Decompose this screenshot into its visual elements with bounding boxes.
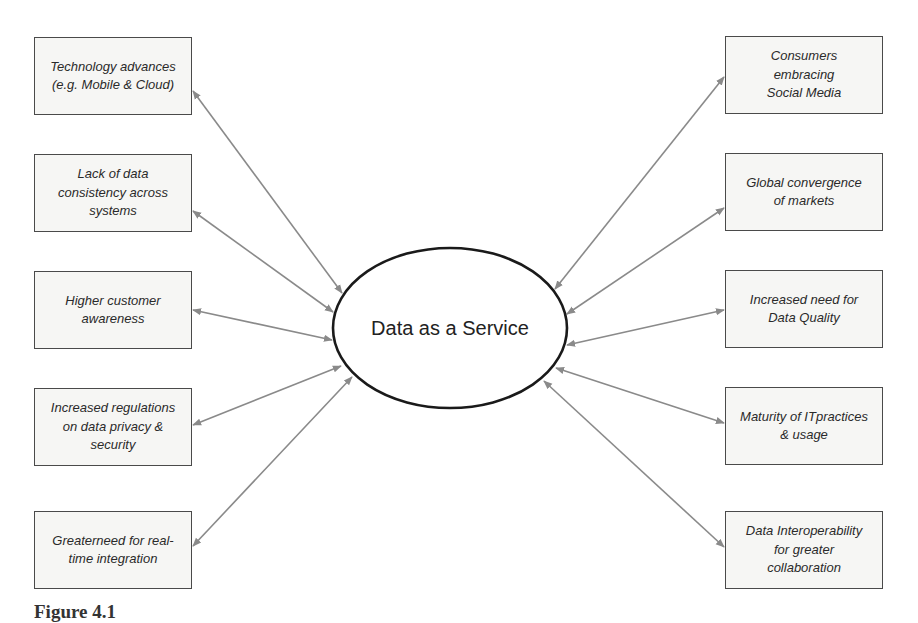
connector-left-2 (193, 211, 333, 312)
connector-right-5 (544, 381, 724, 547)
driver-box-customer-awareness: Higher customer awareness (34, 271, 192, 349)
driver-box-data-quality: Increased need for Data Quality (725, 270, 883, 348)
connector-right-3 (567, 310, 724, 345)
connector-left-4 (193, 366, 341, 425)
driver-box-real-time-integration: Greaterneed for real- time integration (34, 511, 192, 589)
connector-right-1 (555, 77, 724, 289)
driver-box-technology-advances: Technology advances (e.g. Mobile & Cloud… (34, 37, 192, 115)
driver-label: Higher customer awareness (61, 292, 164, 329)
driver-box-data-interoperability: Data Interoperability for greater collab… (725, 511, 883, 589)
driver-box-regulations: Increased regulations on data privacy & … (34, 388, 192, 466)
connector-left-5 (193, 377, 352, 546)
connector-left-1 (193, 91, 342, 293)
driver-box-it-practices: Maturity of ITpractices & usage (725, 387, 883, 465)
driver-box-data-consistency: Lack of data consistency across systems (34, 154, 192, 232)
figure-caption: Figure 4.1 (34, 601, 116, 623)
driver-label: Global convergence of markets (742, 174, 866, 211)
driver-box-social-media: Consumers embracing Social Media (725, 36, 883, 114)
driver-label: Greaterneed for real- time integration (48, 532, 177, 569)
driver-label: Technology advances (e.g. Mobile & Cloud… (46, 58, 179, 95)
driver-label: Consumers embracing Social Media (763, 47, 845, 103)
driver-label: Increased regulations on data privacy & … (47, 399, 179, 455)
center-ellipse (333, 248, 567, 408)
figure-label: Figure 4.1 (34, 601, 116, 622)
driver-box-global-convergence: Global convergence of markets (725, 153, 883, 231)
connector-right-2 (567, 208, 724, 314)
connector-left-3 (193, 310, 332, 340)
driver-label: Maturity of ITpractices & usage (736, 408, 872, 445)
driver-label: Data Interoperability for greater collab… (742, 522, 866, 578)
driver-label: Lack of data consistency across systems (54, 165, 172, 221)
driver-label: Increased need for Data Quality (746, 291, 862, 328)
